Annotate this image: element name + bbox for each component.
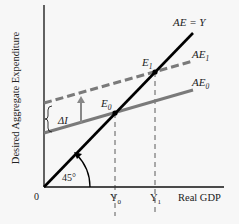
- y0-label: Y0: [110, 192, 122, 206]
- x-axis-label: Real GDP: [178, 192, 221, 203]
- chart: Desired Aggregate Expenditure 0 AE = Y A…: [0, 0, 239, 224]
- delta-i-brace: [45, 106, 52, 132]
- angle-label: 45°: [62, 172, 76, 183]
- ae-y-label: AE = Y: [172, 16, 207, 28]
- e0-point: [112, 110, 117, 115]
- origin-label: 0: [34, 191, 39, 202]
- ae1-label: AE1: [191, 48, 209, 63]
- delta-i-arrowhead-icon: [77, 96, 85, 103]
- delta-i-label: ΔI: [57, 115, 68, 126]
- e1-label: E1: [141, 56, 152, 71]
- e1-point: [152, 69, 157, 74]
- ae-y-line: [44, 33, 193, 187]
- ae0-label: AE0: [191, 76, 209, 91]
- y-axis-label: Desired Aggregate Expenditure: [10, 31, 21, 164]
- e0-label: E0: [100, 97, 112, 112]
- y1-label: Y1: [150, 192, 162, 206]
- angle-arc: [77, 155, 90, 187]
